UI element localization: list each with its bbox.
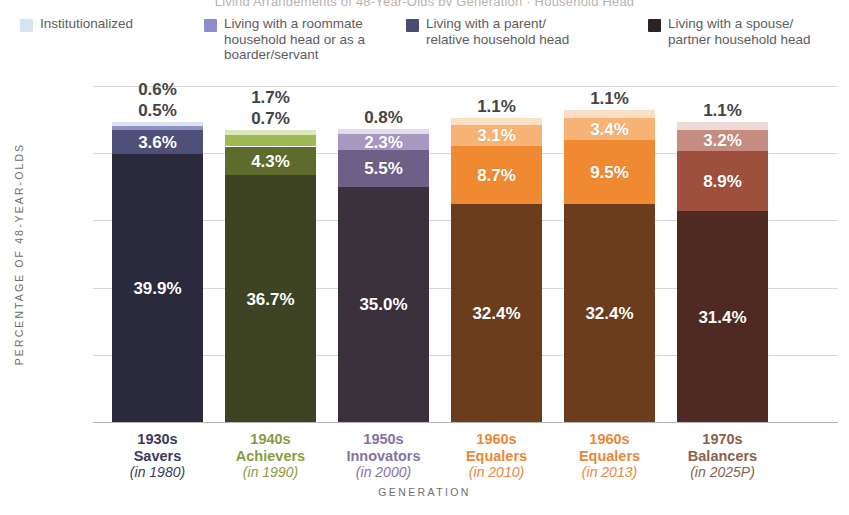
x-label-decade: 1960s (476, 431, 516, 447)
segment-institutionalized-value-label: 0.8% (338, 108, 429, 128)
x-label-decade: 1950s (363, 431, 403, 447)
segment-institutionalized-value-label: 1.1% (564, 89, 655, 109)
legend-swatch-icon (648, 19, 661, 32)
bar-1930s-savers[interactable]: 39.9%3.6%0.6%0.5% (112, 122, 203, 422)
y-axis-title-wrap: PERCENTAGE OF 48-YEAR-OLDS (2, 0, 26, 515)
x-axis-title: GENERATION (0, 486, 849, 498)
segment-roommate-value-label: 3.1% (451, 126, 542, 146)
bar-1970s-balancers[interactable]: 31.4%8.9%3.2%1.1% (677, 122, 768, 422)
segment-institutionalized[interactable] (677, 122, 768, 129)
segment-institutionalized[interactable] (338, 129, 429, 134)
legend-swatch-icon (204, 19, 217, 32)
plot-area: 50%40%30%20%10%0%39.9%3.6%0.6%0.5%36.7%4… (93, 86, 838, 422)
segment-roommate-value-label: 3.4% (564, 120, 655, 140)
segment-spouse-value-label: 39.9% (112, 279, 203, 299)
x-label-decade: 1930s (137, 431, 177, 447)
segment-institutionalized-value-label: 0.7% (225, 109, 316, 129)
x-label-name: Achievers (236, 448, 305, 464)
segment-roommate-value-label: 2.3% (338, 133, 429, 153)
segment-spouse-value-label: 31.4% (677, 308, 768, 328)
gridline-50 (93, 86, 838, 87)
chart-page: Living Arrangements of 48-Year-Olds by G… (0, 0, 849, 515)
segment-institutionalized-value-label: 1.1% (677, 101, 768, 121)
x-label-name: Balancers (688, 448, 757, 464)
segment-institutionalized[interactable] (451, 118, 542, 125)
x-label-name: Savers (134, 448, 182, 464)
bar-1950s-innovators[interactable]: 35.0%5.5%2.3%0.8% (338, 129, 429, 422)
segment-institutionalized-value-label: 0.5% (112, 101, 203, 121)
legend-label: Living with a spouse/ partner household … (668, 16, 811, 47)
segment-roommate[interactable] (225, 135, 316, 146)
segment-institutionalized-value-label: 1.1% (451, 97, 542, 117)
segment-parent-value-label: 9.5% (564, 163, 655, 183)
segment-spouse-value-label: 32.4% (564, 304, 655, 324)
x-label-name: Innovators (346, 448, 420, 464)
segment-institutionalized[interactable] (112, 122, 203, 125)
legend-label: Living with a roommate household head or… (224, 16, 365, 63)
gridline-0 (93, 422, 838, 423)
bar-1940s-achievers[interactable]: 36.7%4.3%1.7%0.7% (225, 130, 316, 422)
segment-institutionalized[interactable] (564, 110, 655, 117)
x-label-name: Equalers (466, 448, 527, 464)
segment-roommate[interactable] (112, 126, 203, 130)
segment-roommate-value-label: 1.7% (225, 88, 316, 108)
segment-roommate-value-label: 3.2% (677, 131, 768, 151)
segment-spouse-value-label: 32.4% (451, 304, 542, 324)
legend-label: Institutionalized (40, 16, 133, 32)
segment-parent-value-label: 4.3% (225, 152, 316, 172)
cutoff-title: Living Arrangements of 48-Year-Olds by G… (0, 0, 849, 6)
x-label-name: Equalers (579, 448, 640, 464)
x-label-year: (in 2025P) (657, 464, 789, 481)
chart-legend: Institutionalized Living with a roommate… (8, 16, 849, 72)
x-label-decade: 1940s (250, 431, 290, 447)
segment-spouse-value-label: 35.0% (338, 295, 429, 315)
segment-parent-value-label: 3.6% (112, 133, 203, 153)
segment-parent-value-label: 5.5% (338, 159, 429, 179)
segment-roommate-value-label: 0.6% (112, 80, 203, 100)
legend-label: Living with a parent/ relative household… (426, 16, 569, 47)
segment-institutionalized[interactable] (225, 130, 316, 135)
x-label-bar-1970s-balancers: 1970sBalancers(in 2025P) (657, 431, 789, 481)
segment-spouse-value-label: 36.7% (225, 290, 316, 310)
bar-1960s-equalers-2013[interactable]: 32.4%9.5%3.4%1.1% (564, 110, 655, 422)
x-label-decade: 1960s (589, 431, 629, 447)
x-label-decade: 1970s (702, 431, 742, 447)
segment-parent-value-label: 8.7% (451, 166, 542, 186)
segment-parent-value-label: 8.9% (677, 172, 768, 192)
bar-1960s-equalers-2010[interactable]: 32.4%8.7%3.1%1.1% (451, 118, 542, 422)
legend-swatch-icon (406, 19, 419, 32)
y-axis-title: PERCENTAGE OF 48-YEAR-OLDS (13, 119, 25, 389)
